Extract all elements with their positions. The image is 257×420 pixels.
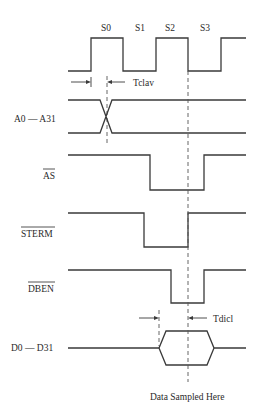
state-s2: S2 <box>165 23 175 33</box>
sterm-waveform <box>68 213 246 247</box>
state-s1: S1 <box>135 23 145 33</box>
tclav-label: Tclav <box>133 78 154 88</box>
tdicl-label: Tdicl <box>213 314 233 324</box>
tdicl-marker: Tdicl <box>139 314 233 324</box>
dben-waveform <box>68 270 246 303</box>
signal-label-dben: DBEN <box>28 282 55 294</box>
address-bus-waveform <box>68 100 246 133</box>
state-s3: S3 <box>200 23 210 33</box>
svg-text:STERM: STERM <box>21 229 53 239</box>
svg-text:AS: AS <box>43 171 55 181</box>
as-waveform <box>68 155 246 190</box>
tclav-marker: Tclav <box>71 77 154 88</box>
sample-annotation: Data Sampled Here <box>150 392 224 402</box>
signal-label-address: A0 — A31 <box>14 114 56 124</box>
state-s0: S0 <box>101 23 111 33</box>
signal-label-as: AS <box>43 169 55 181</box>
clock-waveform <box>68 38 246 71</box>
data-bus-waveform <box>68 331 246 365</box>
clock-state-labels: S0 S1 S2 S3 <box>101 23 210 33</box>
signal-label-data: D0 — D31 <box>11 343 53 353</box>
bus-timing-diagram: S0 S1 S2 S3 Tclav A0 — A31 AS STERM DBEN <box>0 0 257 420</box>
signal-label-sterm: STERM <box>21 227 55 239</box>
svg-text:DBEN: DBEN <box>28 284 54 294</box>
